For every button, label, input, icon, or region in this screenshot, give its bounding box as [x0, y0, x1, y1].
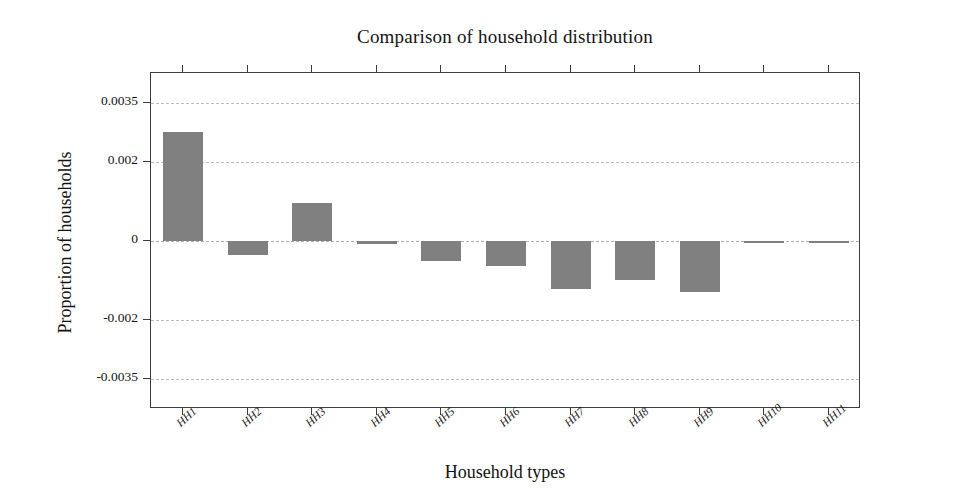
bar-hh5 [421, 241, 461, 261]
bar-hh1 [163, 132, 203, 241]
x-tick-mark-top [182, 65, 183, 72]
x-tick-label: HH5 [432, 405, 457, 429]
x-tick-mark-top [376, 65, 377, 72]
x-tick-label: HH6 [497, 405, 522, 429]
x-tick-mark-top [828, 65, 829, 72]
x-tick-label: HH1 [174, 405, 199, 429]
bar-hh2 [228, 241, 268, 255]
y-axis-title: Proportion of households [55, 73, 76, 413]
y-tick-mark [143, 378, 150, 379]
y-tick-mark [143, 319, 150, 320]
x-tick-mark-top [570, 65, 571, 72]
y-tick-mark [143, 240, 150, 241]
bars-layer [151, 73, 859, 407]
x-tick-mark-top [440, 65, 441, 72]
x-tick-mark-top [505, 65, 506, 72]
figure-canvas: Comparison of household distribution 0.0… [0, 0, 970, 504]
bar-hh8 [615, 241, 655, 280]
bar-hh10 [744, 241, 784, 243]
x-tick-mark-top [763, 65, 764, 72]
bar-hh11 [809, 241, 849, 243]
x-tick-label: HH3 [303, 405, 328, 429]
bar-hh9 [680, 241, 720, 292]
chart-title: Comparison of household distribution [150, 26, 860, 48]
x-tick-mark-top [247, 65, 248, 72]
bar-hh6 [486, 241, 526, 266]
bar-hh4 [357, 241, 397, 244]
y-tick-mark [143, 161, 150, 162]
x-tick-label: HH8 [626, 405, 651, 429]
x-tick-mark-top [634, 65, 635, 72]
x-axis-title: Household types [150, 462, 860, 483]
bar-hh7 [551, 241, 591, 289]
x-tick-label: HH2 [239, 405, 264, 429]
plot-area [150, 72, 860, 408]
x-tick-label: HH7 [562, 405, 587, 429]
x-tick-mark-top [311, 65, 312, 72]
x-tick-mark-top [699, 65, 700, 72]
y-tick-mark [143, 102, 150, 103]
bar-hh3 [292, 203, 332, 241]
x-tick-label: HH9 [691, 405, 716, 429]
x-tick-label: HH4 [368, 405, 393, 429]
